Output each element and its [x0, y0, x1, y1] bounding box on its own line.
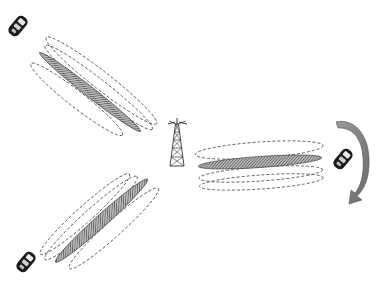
candidate-beam — [64, 182, 164, 274]
active-beam — [36, 49, 143, 136]
candidate-beam — [40, 39, 157, 135]
candidate-beam — [35, 168, 135, 260]
diagram-canvas — [0, 0, 389, 290]
beam-group-top-left — [23, 30, 162, 153]
base-station-tower-icon — [168, 118, 187, 166]
mobile-phone-icon-top-left — [6, 14, 29, 39]
beam-group-bottom-left — [35, 160, 164, 283]
active-beam — [198, 152, 322, 172]
beam-group-right — [195, 138, 326, 194]
mobile-phone-icon-bottom-left — [14, 250, 37, 275]
beamforming-diagram: Base station beamforming toward mobile u… — [0, 0, 389, 290]
candidate-beam — [41, 30, 162, 130]
candidate-beam — [40, 171, 143, 266]
mobile-phone-icon-right — [331, 147, 354, 172]
